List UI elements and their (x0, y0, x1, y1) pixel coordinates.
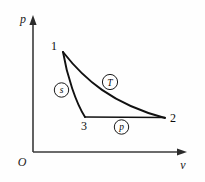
point-label-3: 3 (81, 119, 87, 133)
pv-diagram-figure: s T p 1 2 3 p v O (0, 0, 205, 182)
pressure-axis-arrow-icon (29, 15, 36, 25)
isobaric-badge-label: p (118, 122, 124, 132)
origin-label: O (18, 155, 27, 169)
volume-axis-arrow-icon (177, 148, 187, 155)
point-label-2: 2 (170, 111, 176, 125)
pressure-axis-label: p (19, 12, 26, 26)
isobaric-line (85, 117, 165, 118)
isothermal-curve (63, 52, 165, 118)
isentropic-badge-label: s (60, 85, 64, 95)
volume-axis-label: v (180, 158, 186, 172)
point-label-1: 1 (51, 39, 57, 53)
pv-diagram-canvas: s T p 1 2 3 p v O (0, 0, 205, 182)
isothermal-badge-label: T (107, 78, 113, 88)
